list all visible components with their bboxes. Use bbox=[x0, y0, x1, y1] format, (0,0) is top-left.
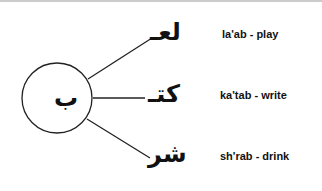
arabic-branch-3: شر bbox=[148, 140, 187, 168]
gloss-branch-2: ka'tab - write bbox=[220, 89, 287, 101]
root-letter: ب bbox=[46, 84, 86, 114]
gloss-branch-3: sh'rab - drink bbox=[220, 150, 289, 162]
arabic-branch-2: كتـ bbox=[148, 80, 180, 108]
gloss-branch-1: la'ab - play bbox=[222, 28, 278, 40]
branch-line-1 bbox=[88, 38, 152, 79]
root-word-diagram: ب لعـ كتـ شر la'ab - play ka'tab - write… bbox=[0, 0, 322, 191]
branch-line-3 bbox=[87, 119, 150, 158]
arabic-branch-1: لعـ bbox=[150, 18, 181, 46]
